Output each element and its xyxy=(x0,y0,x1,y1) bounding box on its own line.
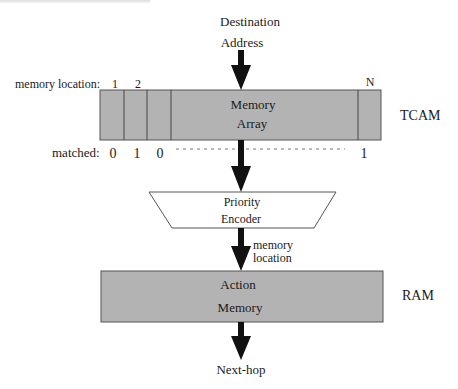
input-label-line1: Destination xyxy=(220,14,280,29)
output-arrow-icon xyxy=(231,322,251,360)
ram-box-line1: Action xyxy=(220,277,255,292)
encoder-line1: Priority xyxy=(224,195,261,210)
matched-label: matched: xyxy=(52,145,100,160)
memory-location-label: memory location: xyxy=(15,77,100,92)
ram-box-line2: Memory xyxy=(218,300,263,315)
ram-label: RAM xyxy=(402,288,434,303)
tcam-box-line2: Array xyxy=(237,116,267,131)
matched-value-n: 1 xyxy=(361,146,368,161)
output-label: Next-hop xyxy=(216,362,265,377)
tcam-label: TCAM xyxy=(400,108,440,123)
match-arrow-icon xyxy=(231,140,251,192)
location-arrow-icon xyxy=(231,228,251,271)
input-arrow-icon xyxy=(231,50,251,90)
matched-value-3: 0 xyxy=(157,146,164,161)
location-index-2: 2 xyxy=(135,77,141,92)
location-index-1: 1 xyxy=(112,77,118,92)
encoder-line2: Encoder xyxy=(221,212,261,227)
matched-value-2: 1 xyxy=(134,146,141,161)
encoder-output-line2: location xyxy=(253,252,292,265)
tcam-box-line1: Memory xyxy=(231,97,276,112)
matched-value-1: 0 xyxy=(110,146,117,161)
input-label-line2: Address xyxy=(221,35,264,50)
location-index-n: N xyxy=(366,75,375,90)
